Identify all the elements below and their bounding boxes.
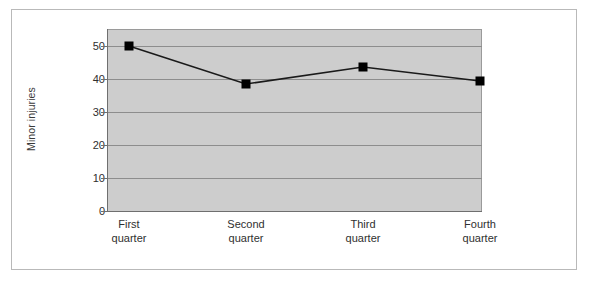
y-axis-title: Minor injuries: [25, 64, 37, 174]
x-tick-label-first-quarter: First quarter: [74, 217, 184, 245]
chart-figure: Minor injuries 0 10 20 30 40 50: [11, 9, 577, 270]
x-tick-label-line-2: quarter: [308, 231, 418, 245]
x-tick-label-third-quarter: Third quarter: [308, 217, 418, 245]
data-point-marker-fourth-quarter: [476, 77, 485, 86]
y-tick-label-0: 0: [65, 206, 105, 217]
data-point-marker-first-quarter: [125, 42, 134, 51]
y-tick-label-40: 40: [65, 74, 105, 85]
x-tick-label-second-quarter: Second quarter: [191, 217, 301, 245]
chart-area: Minor injuries 0 10 20 30 40 50: [12, 10, 578, 271]
y-tick-label-50: 50: [65, 41, 105, 52]
y-tick-label-30: 30: [65, 107, 105, 118]
x-tick-label-line-1: Second: [191, 217, 301, 231]
x-tick-label-line-1: First: [74, 217, 184, 231]
data-point-marker-second-quarter: [242, 80, 251, 89]
x-tick-label-line-2: quarter: [191, 231, 301, 245]
y-tick-label-10: 10: [65, 173, 105, 184]
x-tick-label-fourth-quarter: Fourth quarter: [425, 217, 535, 245]
x-tick-label-line-1: Third: [308, 217, 418, 231]
x-tick-label-line-2: quarter: [425, 231, 535, 245]
x-tick-label-line-1: Fourth: [425, 217, 535, 231]
y-tick-label-20: 20: [65, 140, 105, 151]
x-tick-label-line-2: quarter: [74, 231, 184, 245]
data-point-marker-third-quarter: [359, 63, 368, 72]
data-series-minor-injuries: [107, 29, 481, 211]
series-line: [129, 46, 480, 84]
plot-right-edge: [481, 29, 482, 211]
